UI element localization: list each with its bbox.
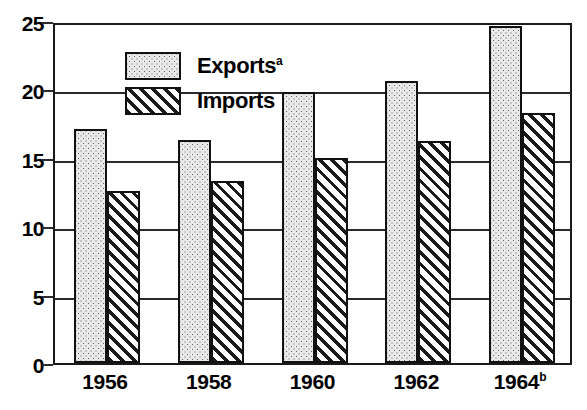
y-axis-tick-mark (42, 22, 53, 24)
bar-exports-1956 (74, 129, 107, 363)
bar-exports-1960 (282, 92, 315, 363)
y-axis-tick-label: 15 (4, 149, 44, 170)
legend-label-text: Exports (197, 53, 276, 78)
bar-imports-1960 (315, 158, 348, 363)
legend-label-text: Imports (197, 88, 275, 113)
y-axis-tick-label: 25 (4, 13, 44, 34)
plot-area: ExportsaImports (53, 23, 572, 365)
legend-swatch-imports (125, 87, 181, 115)
y-axis-tick-mark (42, 159, 53, 161)
x-axis-tick-label: 1958 (186, 370, 232, 394)
bar-imports-1958 (211, 181, 244, 363)
y-axis-tick-mark (42, 364, 53, 366)
y-axis-tick-label: 0 (4, 355, 44, 376)
y-axis-tick-label: 5 (4, 286, 44, 307)
x-axis-tick-text: 1956 (82, 370, 128, 393)
x-axis-tick-text: 1958 (186, 370, 232, 393)
bar-exports-1962 (385, 81, 418, 363)
y-axis-tick-label: 20 (4, 81, 44, 102)
x-axis-tick-label: 1960 (290, 370, 336, 394)
x-axis-tick-text: 1962 (394, 370, 440, 393)
bar-imports-1964 (522, 113, 555, 363)
x-axis: 19561958196019621964b (53, 370, 572, 408)
y-axis: 0510152025 (0, 0, 44, 410)
x-axis-tick-label: 1956 (82, 370, 128, 394)
bar-exports-1964 (489, 26, 522, 363)
legend-label-exports: Exportsa (197, 53, 283, 79)
x-axis-tick-label: 1964b (494, 370, 547, 394)
x-axis-tick-label: 1962 (394, 370, 440, 394)
legend-label-imports: Imports (197, 88, 275, 114)
y-axis-tick-mark (42, 296, 53, 298)
bar-exports-1958 (178, 140, 211, 363)
bar-chart: 0510152025 ExportsaImports 1956195819601… (0, 0, 587, 410)
legend-swatch-exports (125, 52, 181, 80)
bar-imports-1956 (107, 191, 140, 363)
legend-item-imports: Imports (125, 87, 283, 115)
x-axis-tick-footnote-marker: b (539, 370, 546, 384)
legend-item-exports: Exportsa (125, 52, 283, 80)
y-axis-tick-label: 10 (4, 218, 44, 239)
bar-imports-1962 (418, 141, 451, 363)
x-axis-tick-text: 1960 (290, 370, 336, 393)
x-axis-tick-text: 1964 (494, 370, 540, 393)
y-axis-tick-mark (42, 90, 53, 92)
legend-footnote-marker: a (276, 54, 283, 68)
y-axis-tick-mark (42, 227, 53, 229)
legend: ExportsaImports (125, 52, 283, 122)
